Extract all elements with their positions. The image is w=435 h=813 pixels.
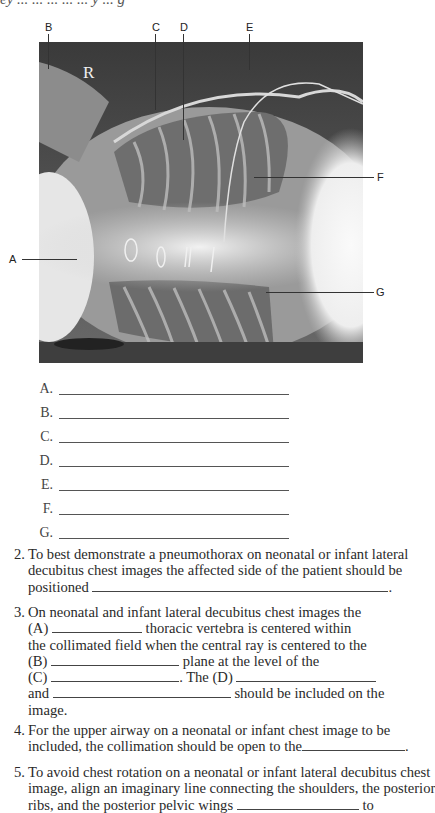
part-label-d: . The (D) <box>179 669 233 685</box>
label-a: A <box>9 254 16 265</box>
answer-blank-q3-d[interactable] <box>236 670 376 682</box>
question-text: the collimated field when the central ra… <box>28 637 396 653</box>
punctuation: . <box>405 738 409 754</box>
answer-blank-q3-b[interactable] <box>51 654 179 666</box>
label-e: E <box>246 22 253 33</box>
question-text: To avoid chest rotation on a neonatal or… <box>28 764 396 780</box>
question-text: should be included on the <box>234 685 384 701</box>
question-number: 3. <box>14 604 25 620</box>
question-text: image, align an imaginary line connectin… <box>28 780 396 796</box>
answer-letter: A. <box>29 381 53 397</box>
answer-blank-g[interactable] <box>59 538 289 539</box>
question-text: thoracic vertebra is centered within <box>146 620 352 636</box>
answer-letter: C. <box>29 429 53 445</box>
question-text: ribs, and the posterior pelvic wings <box>28 797 233 813</box>
part-label-a: (A) <box>28 620 48 636</box>
question-text: to <box>362 797 373 813</box>
answer-blank-q2[interactable] <box>92 580 388 592</box>
label-f: F <box>377 172 384 183</box>
cut-off-header-text: ey ... ... ... ... ... y ... g <box>0 0 400 5</box>
answer-blank-q5[interactable] <box>237 798 359 810</box>
leader-line-b <box>48 34 49 69</box>
chest-xray-image: R <box>39 42 363 363</box>
answer-blank-d[interactable] <box>59 466 289 467</box>
leader-line-c <box>155 34 156 110</box>
label-d: D <box>180 22 188 33</box>
question-text: On neonatal and infant lateral decubitus… <box>28 604 396 620</box>
answer-blank-q3-d2[interactable] <box>53 686 231 698</box>
answer-letter: B. <box>29 405 53 421</box>
part-label-b: (B) <box>28 653 47 669</box>
answer-blank-b[interactable] <box>59 418 289 419</box>
question-number: 4. <box>14 722 25 738</box>
question-text: and <box>28 685 49 701</box>
answer-letter: E. <box>29 477 53 493</box>
answer-blank-a[interactable] <box>59 394 289 395</box>
question-text: For the upper airway on a neonatal or in… <box>28 722 396 738</box>
leader-line-f <box>254 177 374 178</box>
label-g: G <box>376 287 385 298</box>
question-text: positioned <box>28 579 89 595</box>
question-text: To best demonstrate a pneumothorax on ne… <box>28 546 396 562</box>
question-text: decubitus chest images the affected side… <box>28 562 396 578</box>
label-c: C <box>152 22 160 33</box>
question-number: 2. <box>14 546 25 562</box>
answer-blank-c[interactable] <box>59 442 289 443</box>
leader-line-g <box>266 292 374 293</box>
answer-blank-f[interactable] <box>59 514 289 515</box>
leader-line-d <box>183 34 184 140</box>
answer-letter: G. <box>29 525 53 541</box>
question-text: image. <box>28 702 396 718</box>
answer-blank-q4[interactable] <box>302 739 405 751</box>
answer-blank-e[interactable] <box>59 490 289 491</box>
leader-line-a <box>22 259 77 260</box>
answer-blank-q3-a[interactable] <box>52 621 142 633</box>
label-b: B <box>45 22 52 33</box>
answer-letter: F. <box>29 501 53 517</box>
leader-line-e <box>249 34 250 70</box>
question-number: 5. <box>14 764 25 780</box>
question-text: included, the collimation should be open… <box>28 738 302 754</box>
part-label-c: (C) <box>28 669 47 685</box>
answer-blank-q3-c[interactable] <box>51 670 179 682</box>
question-text: plane at the level of the <box>183 653 320 669</box>
punctuation: . <box>388 579 392 595</box>
r-marker: R <box>83 63 95 82</box>
answer-letter: D. <box>29 453 53 469</box>
